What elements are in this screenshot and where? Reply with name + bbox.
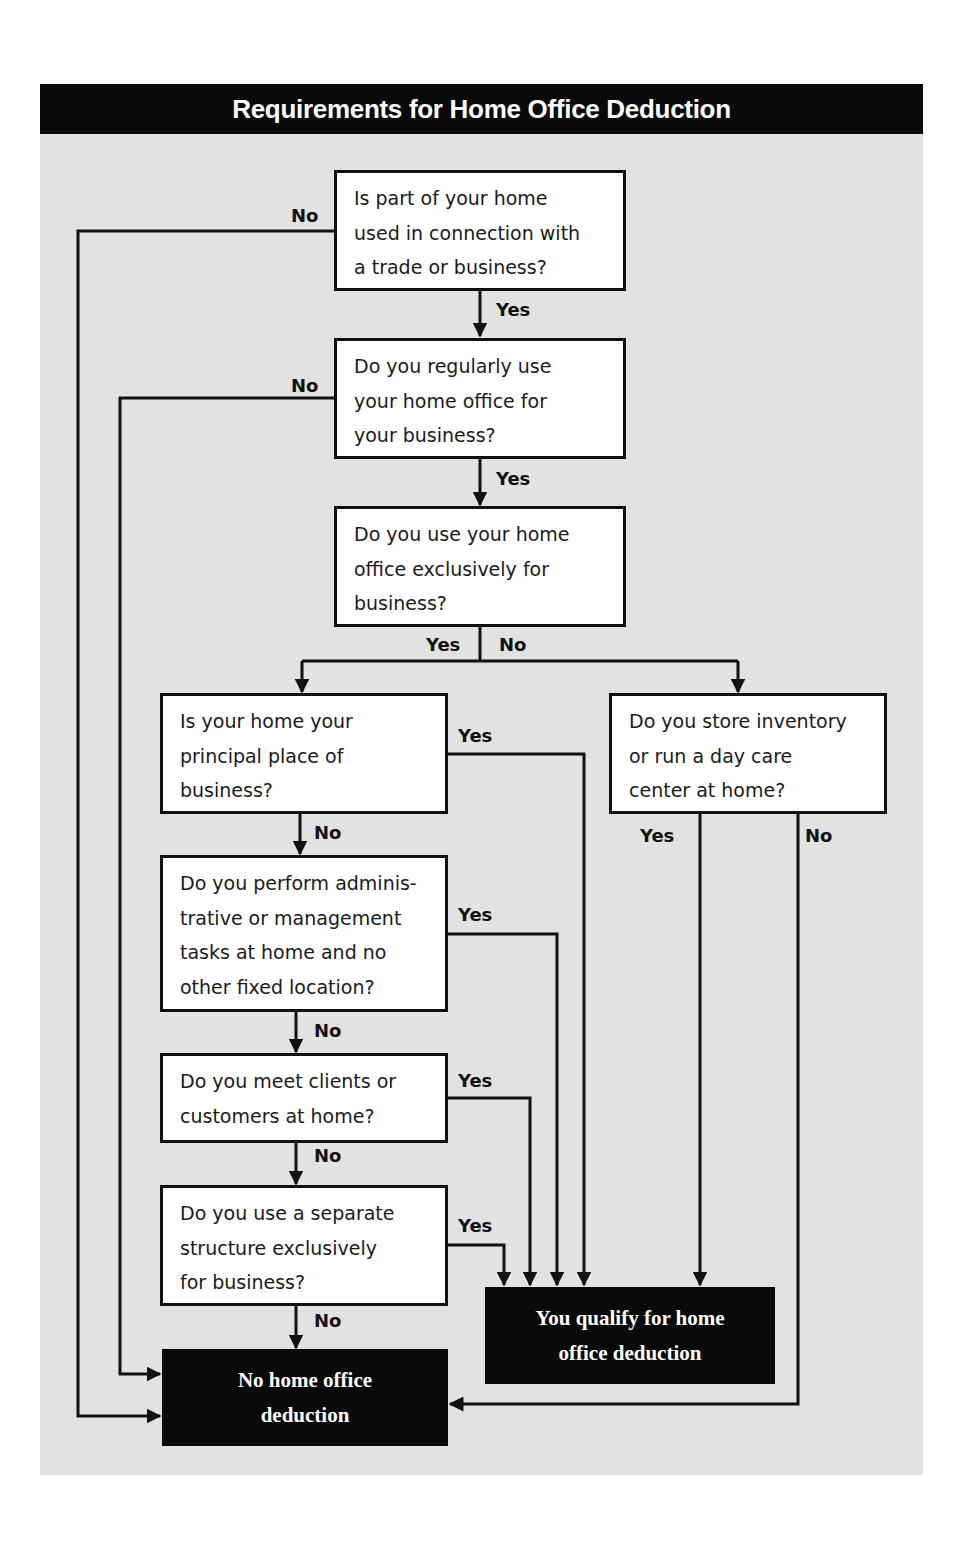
- question-admin-tasks: Do you perform adminis- trative or manag…: [160, 855, 448, 1012]
- question-meet-clients: Do you meet clients or customers at home…: [160, 1053, 448, 1143]
- label-q6-no: No: [314, 1020, 341, 1041]
- result-qualify: You qualify for home office deduction: [485, 1287, 775, 1384]
- question-separate-structure: Do you use a separate structure exclusiv…: [160, 1185, 448, 1306]
- question-exclusive-use: Do you use your home office exclusively …: [334, 506, 626, 627]
- label-q4-yes: Yes: [458, 725, 492, 746]
- label-q2-yes: Yes: [496, 468, 530, 489]
- label-q7-yes: Yes: [458, 1070, 492, 1091]
- question-principal-place: Is your home your principal place of bus…: [160, 693, 448, 814]
- label-q4-no: No: [314, 822, 341, 843]
- label-q8-yes: Yes: [458, 1215, 492, 1236]
- label-q5-yes: Yes: [640, 825, 674, 846]
- label-q3-yes: Yes: [426, 634, 460, 655]
- label-q1-yes: Yes: [496, 299, 530, 320]
- result-no-deduction: No home office deduction: [162, 1349, 448, 1446]
- label-q3-no: No: [499, 634, 526, 655]
- question-regular-use: Do you regularly use your home office fo…: [334, 338, 626, 459]
- label-q6-yes: Yes: [458, 904, 492, 925]
- question-inventory-daycare: Do you store inventory or run a day care…: [609, 693, 887, 814]
- label-q1-no: No: [291, 205, 318, 226]
- label-q7-no: No: [314, 1145, 341, 1166]
- label-q8-no: No: [314, 1310, 341, 1331]
- label-q2-no: No: [291, 375, 318, 396]
- label-q5-no: No: [805, 825, 832, 846]
- question-home-used-for-business: Is part of your home used in connection …: [334, 170, 626, 291]
